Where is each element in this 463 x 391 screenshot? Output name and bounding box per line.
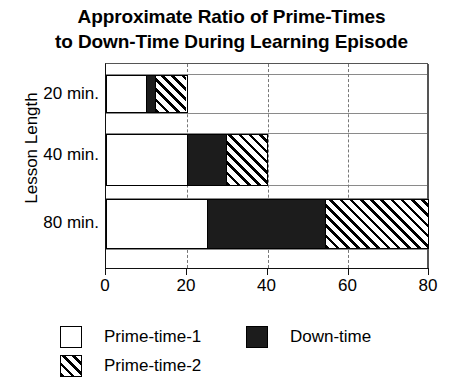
legend-item-down-time: Down-time bbox=[246, 326, 371, 348]
x-tick-label-0: 0 bbox=[85, 276, 125, 296]
legend-swatch-prime-time-1 bbox=[60, 326, 82, 348]
x-tick-label-80: 80 bbox=[408, 276, 448, 296]
x-tick-20 bbox=[186, 268, 187, 275]
legend-swatch-prime-time-2 bbox=[60, 355, 82, 377]
bar-80min-segment-prime-time-2 bbox=[326, 200, 428, 248]
y-tick-label-80min: 80 min. bbox=[0, 213, 99, 233]
bar-20min-segment-down-time bbox=[146, 76, 156, 112]
legend-item-prime-time-1: Prime-time-1 bbox=[60, 326, 201, 348]
x-tick-0 bbox=[105, 268, 106, 275]
y-tick-label-40min: 40 min. bbox=[0, 145, 99, 165]
x-tick-label-60: 60 bbox=[328, 276, 368, 296]
bar-80min bbox=[106, 199, 429, 249]
x-tick-label-40: 40 bbox=[247, 276, 287, 296]
x-tick-label-20: 20 bbox=[166, 276, 206, 296]
x-tick-80 bbox=[428, 268, 429, 275]
gridline-horizontal-6 bbox=[106, 249, 427, 250]
bar-40min-segment-prime-time-1 bbox=[107, 135, 187, 185]
bar-20min-segment-prime-time-2 bbox=[156, 76, 186, 112]
bar-20min-segment-prime-time-1 bbox=[107, 76, 146, 112]
bar-40min-segment-down-time bbox=[187, 135, 227, 185]
legend-label-prime-time-1: Prime-time-1 bbox=[104, 327, 201, 347]
bar-80min-segment-prime-time-1 bbox=[107, 200, 207, 248]
legend-swatch-down-time bbox=[246, 326, 268, 348]
legend-label-prime-time-2: Prime-time-2 bbox=[104, 356, 201, 376]
legend-label-down-time: Down-time bbox=[290, 327, 371, 347]
bar-20min bbox=[106, 75, 188, 113]
bar-40min bbox=[106, 134, 268, 186]
x-tick-60 bbox=[348, 268, 349, 275]
bar-40min-segment-prime-time-2 bbox=[227, 135, 267, 185]
gridline-horizontal-2 bbox=[106, 113, 427, 114]
legend-item-prime-time-2: Prime-time-2 bbox=[60, 355, 201, 377]
bar-80min-segment-down-time bbox=[207, 200, 325, 248]
y-tick-label-20min: 20 min. bbox=[0, 84, 99, 104]
x-tick-40 bbox=[267, 268, 268, 275]
plot-area bbox=[105, 63, 428, 268]
